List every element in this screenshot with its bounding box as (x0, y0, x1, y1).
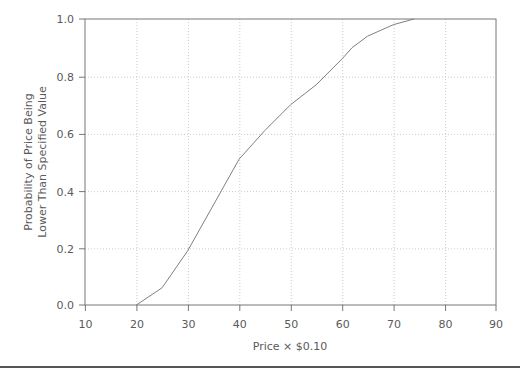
cumulative-distribution-chart: 10 20 30 40 50 60 70 80 90 0.0 0.2 0.4 0… (0, 0, 520, 375)
x-tick-label-6: 70 (387, 318, 401, 331)
bottom-divider (0, 366, 520, 368)
x-tick-label-4: 50 (284, 318, 298, 331)
y-tick-label-2: 0.4 (57, 186, 75, 199)
y-axis-title-line2: Lower Than Specified Value (36, 86, 49, 238)
chart-figure: 10 20 30 40 50 60 70 80 90 0.0 0.2 0.4 0… (0, 0, 520, 375)
y-tick-label-4: 0.8 (57, 71, 75, 84)
x-axis-title: Price × $0.10 (253, 340, 328, 353)
x-tick-label-3: 40 (233, 318, 247, 331)
x-tick-label-2: 30 (181, 318, 195, 331)
y-axis-ticks (79, 19, 85, 305)
x-axis-ticks (85, 305, 496, 311)
x-tick-label-5: 60 (336, 318, 350, 331)
x-tick-label-1: 20 (130, 318, 144, 331)
x-tick-label-7: 80 (439, 318, 453, 331)
x-tick-label-8: 90 (489, 318, 503, 331)
y-tick-label-3: 0.6 (57, 128, 75, 141)
plot-area-background (85, 19, 496, 305)
y-tick-label-5: 1.0 (57, 13, 75, 26)
x-tick-label-0: 10 (78, 318, 92, 331)
y-tick-label-1: 0.2 (57, 243, 75, 256)
y-tick-label-0: 0.0 (57, 299, 75, 312)
y-axis-title-line1: Probability of Price Being (22, 93, 35, 230)
